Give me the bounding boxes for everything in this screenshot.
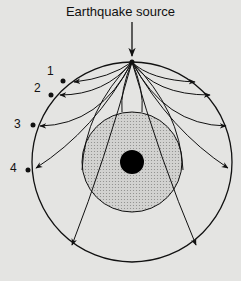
earth-cross-section-diagram [0,0,241,281]
station-3-point [31,123,36,128]
station-1-point [61,79,66,84]
ray-core-inner-right [132,62,142,112]
station-3-label: 3 [14,117,21,131]
station-2-label: 2 [34,81,41,95]
station-4-point [26,168,31,173]
inner-core [120,150,144,174]
ray-right-2 [132,62,210,95]
station-4-label: 4 [10,161,17,175]
station-1-label: 1 [47,64,54,78]
ray-core-inner-left [122,62,132,112]
station-2-point [49,93,54,98]
